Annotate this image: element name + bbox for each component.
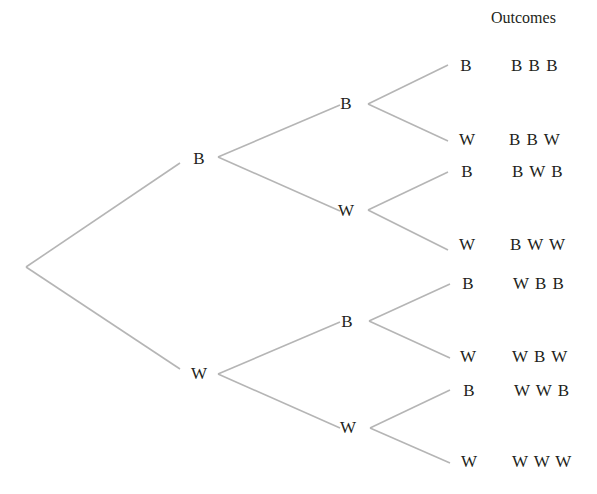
branch-line <box>218 105 340 157</box>
branch-line <box>368 172 448 210</box>
branch-line <box>218 374 340 428</box>
outcome-label: B B W <box>509 131 561 149</box>
branch-line <box>26 267 180 369</box>
outcome-label: W B B <box>513 275 565 293</box>
node-level3: W <box>459 131 475 149</box>
outcome-label: W W B <box>514 382 570 400</box>
branch-line <box>218 157 340 211</box>
node-level3: B <box>463 382 474 400</box>
outcome-label: B W B <box>512 163 564 181</box>
branch-line <box>369 284 450 321</box>
node-level3: W <box>460 348 476 366</box>
node-level2: W <box>340 419 356 437</box>
outcome-label: W B W <box>512 348 568 366</box>
node-level1: W <box>191 365 207 383</box>
tree-diagram <box>0 0 597 494</box>
node-level3: B <box>461 163 472 181</box>
node-level3: B <box>462 275 473 293</box>
outcome-label: B W W <box>510 236 566 254</box>
node-level1: B <box>193 150 204 168</box>
branch-line <box>368 210 448 250</box>
branch-line <box>368 65 448 104</box>
node-level3: W <box>461 453 477 471</box>
branch-line <box>369 321 450 358</box>
branch-line <box>218 322 340 374</box>
node-level3: B <box>460 57 471 75</box>
outcome-label: W W W <box>512 453 572 471</box>
branch-line <box>370 428 450 463</box>
outcomes-header: Outcomes <box>491 9 556 27</box>
node-level2: B <box>340 95 351 113</box>
outcome-label: B B B <box>511 57 559 75</box>
branch-line <box>26 163 180 267</box>
branch-line <box>370 390 450 428</box>
branch-line <box>368 104 448 141</box>
node-level3: W <box>459 236 475 254</box>
node-level2: W <box>338 202 354 220</box>
node-level2: B <box>341 313 352 331</box>
